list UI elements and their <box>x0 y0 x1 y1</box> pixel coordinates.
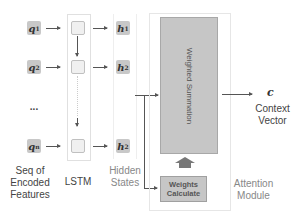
arrow-lstm-h1 <box>93 28 107 29</box>
q1-symbol: q <box>28 23 35 34</box>
arrow-lstm-h2 <box>93 67 107 68</box>
q2-subscript: 2 <box>35 64 39 71</box>
arrow-qn-lstm <box>46 146 60 147</box>
hn-symbol: h <box>117 141 124 152</box>
arrow-to-context <box>222 94 252 95</box>
q1-subscript: 1 <box>35 25 39 32</box>
up-arrow-stem <box>179 163 191 168</box>
h2-symbol: h <box>117 62 124 73</box>
inputs-label: Seq of Encoded Features <box>5 165 55 201</box>
weights-label-line1: Weights <box>161 180 206 189</box>
context-label-line2: Vector <box>250 115 295 127</box>
input-ellipsis: ... <box>27 101 41 113</box>
arrow-cell1-cell2 <box>77 36 78 56</box>
context-label: Context Vector <box>250 103 295 127</box>
arrow-q2-lstm <box>46 67 60 68</box>
input-qn: qn <box>27 139 41 153</box>
context-label-line1: Context <box>250 103 295 115</box>
hidden-states-column <box>113 14 137 159</box>
hidden-h2: h2 <box>116 60 130 74</box>
inputs-label-line3: Features <box>5 189 55 201</box>
h1-subscript: 1 <box>125 25 129 32</box>
lstm-cell-1 <box>71 21 85 35</box>
inputs-label-line1: Seq of <box>5 165 55 177</box>
weights-calculate-box: Weights Calculate <box>160 176 207 202</box>
context-symbol: c <box>267 86 274 99</box>
qn-symbol: q <box>28 141 35 152</box>
attention-label-line1: Attention <box>231 178 276 190</box>
q2-symbol: q <box>28 62 35 73</box>
qn-subscript: n <box>35 143 39 150</box>
h1-symbol: h <box>117 23 124 34</box>
hn-subscript: 2 <box>125 143 129 150</box>
lstm-label: LSTM <box>60 176 96 188</box>
input-q1: q1 <box>27 21 41 35</box>
weighted-summation-label: Weighted Summation <box>185 47 194 123</box>
hidden-states-label: Hidden States <box>105 165 145 189</box>
arrow-q1-lstm <box>46 28 60 29</box>
hidden-label-line1: Hidden <box>105 165 145 177</box>
hidden-label-line2: States <box>105 177 145 189</box>
h2-subscript: 2 <box>125 64 129 71</box>
attention-label-line2: Module <box>231 190 276 202</box>
weights-label-line2: Calculate <box>161 189 206 198</box>
arrow-lstm-hn <box>93 146 107 147</box>
arrow-to-celln <box>77 118 78 126</box>
hidden-hn: h2 <box>116 139 130 153</box>
hidden-h1: h1 <box>116 21 130 35</box>
input-q2: q2 <box>27 60 41 74</box>
lstm-cell-n <box>71 139 85 153</box>
lstm-cell-2 <box>71 60 85 74</box>
weighted-summation-box: Weighted Summation <box>160 17 218 154</box>
attention-module-label: Attention Module <box>231 178 276 202</box>
lstm-dotted-connector <box>77 76 78 116</box>
inputs-label-line2: Encoded <box>5 177 55 189</box>
